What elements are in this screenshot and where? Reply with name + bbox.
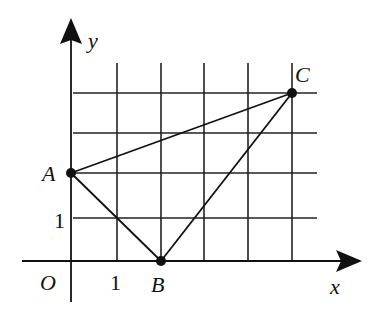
- segment-bc: [161, 93, 292, 261]
- origin-label: O: [40, 270, 56, 295]
- y-unit-label: 1: [54, 208, 65, 233]
- triangle-abc: [71, 93, 292, 261]
- x-unit-label: 1: [110, 270, 121, 295]
- horizontal-grid-lines: [73, 93, 317, 218]
- segment-ab: [71, 173, 161, 261]
- x-axis-label: x: [329, 274, 340, 299]
- point-a-label: A: [40, 161, 56, 186]
- y-axis-label: y: [86, 28, 98, 53]
- point-b: [156, 256, 166, 266]
- point-c: [287, 88, 297, 98]
- point-a: [66, 168, 76, 178]
- coordinate-diagram: y x O 1 1 A B C: [0, 0, 384, 312]
- point-b-label: B: [151, 272, 164, 297]
- point-c-label: C: [295, 62, 310, 87]
